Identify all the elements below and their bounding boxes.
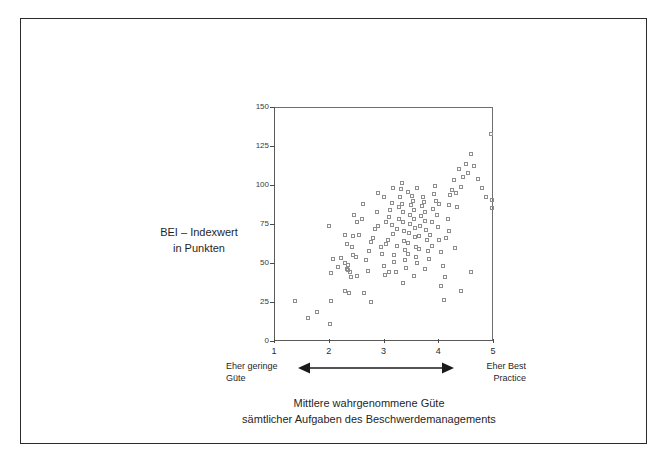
data-point [400,202,404,206]
data-point [457,167,461,171]
y-axis-title-line-2: in Punkten [173,242,225,254]
right-anchor-line-1: Eher Best [486,361,526,371]
data-point [355,274,359,278]
data-point [444,236,448,240]
data-point [442,298,446,302]
data-point [401,281,405,285]
data-point [476,177,480,181]
data-point [452,178,456,182]
data-point [343,233,347,237]
data-point [415,186,419,190]
data-point [351,253,355,257]
data-point [459,289,463,293]
data-point [426,249,430,253]
data-point [428,233,432,237]
data-point [406,252,410,256]
data-point [328,322,332,326]
data-point [447,229,451,233]
data-point [431,207,435,211]
data-point [336,265,340,269]
data-point [484,195,488,199]
data-point [367,249,371,253]
data-point [366,269,370,273]
data-point [293,299,297,303]
data-point [315,310,319,314]
data-point [361,202,365,206]
data-point [472,164,476,168]
data-point [419,214,423,218]
y-tick-label: 125 [256,140,269,151]
data-point [413,226,417,230]
y-tick-label: 50 [260,257,269,268]
data-point [412,208,416,212]
data-point [376,191,380,195]
data-point [387,270,391,274]
data-point [480,186,484,190]
data-point [409,203,413,207]
data-point [386,238,390,242]
data-point [360,217,364,221]
figure-outer-border: BEI – Indexwert in Punkten 0255075100125… [20,18,647,444]
data-point [427,257,431,261]
data-point [382,264,386,268]
data-point [401,210,405,214]
data-point [454,191,458,195]
y-tick-label: 75 [260,218,269,229]
plot-area: 0255075100125150 12345 [274,107,493,341]
caption-line-1: Mittlere wahrgenommene Güte [204,395,534,411]
data-point [430,244,434,248]
left-anchor-label: Eher geringe Güte [226,360,292,384]
data-point [425,238,429,242]
data-point [382,195,386,199]
double-headed-arrow-icon [298,361,454,375]
data-point [391,232,395,236]
data-point [469,270,473,274]
x-tick-label: 3 [381,346,386,357]
data-point [408,213,412,217]
data-point [448,193,452,197]
data-point [327,224,331,228]
data-point [369,240,373,244]
data-point [441,264,445,268]
data-point [437,202,441,206]
data-point [415,261,419,265]
data-point [364,258,368,262]
data-point [306,316,310,320]
data-point [411,199,415,203]
data-point [339,256,343,260]
y-axis-title-line-1: BEI – Indexwert [160,226,238,238]
data-point [430,220,434,224]
data-point [469,152,473,156]
data-point [423,210,427,214]
data-point [400,181,404,185]
data-point [329,299,333,303]
data-point [490,198,494,202]
data-point [424,228,428,232]
data-point [384,242,388,246]
x-tick-label: 2 [326,346,331,357]
data-point [408,222,412,226]
data-point [349,275,353,279]
data-point [422,200,426,204]
data-point [423,219,427,223]
data-point [418,224,422,228]
x-tick-label: 1 [271,346,276,357]
data-point [489,132,493,136]
x-tick-label: 4 [436,346,441,357]
y-tick-label: 25 [260,296,269,307]
data-point [373,227,377,231]
data-point [380,252,384,256]
data-point [407,231,411,235]
data-point [346,263,350,267]
data-point [331,257,335,261]
data-point [388,208,392,212]
caption-line-2: sämtlicher Aufgaben des Beschwerdemanage… [204,411,534,427]
data-point [421,195,425,199]
data-point [453,246,457,250]
data-point [439,284,443,288]
data-point [461,175,465,179]
data-point [352,213,356,217]
left-anchor-line-1: Eher geringe [226,361,278,371]
data-point [362,291,366,295]
scatter-plot-figure: BEI – Indexwert in Punkten 0255075100125… [0,0,667,464]
